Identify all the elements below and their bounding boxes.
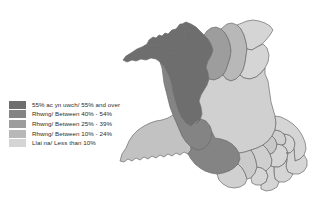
legend-item[interactable]: 55% ac yn uwch/ 55% and over: [9, 100, 117, 110]
legend-label-less-than-10: Llai na/ Less than 10%: [32, 139, 96, 147]
legend-item[interactable]: Rhwng/ Between 40% - 54%: [9, 110, 117, 120]
legend-swatch-10-to-24: [9, 130, 26, 138]
legend-label-55-and-over: 55% ac yn uwch/ 55% and over: [32, 101, 120, 109]
legend-label-40-to-54: Rhwng/ Between 40% - 54%: [32, 110, 112, 118]
legend-swatch-55-and-over: [9, 101, 26, 109]
wales-map-svg[interactable]: [118, 2, 321, 208]
map-figure: 55% ac yn uwch/ 55% and over Rhwng/ Betw…: [0, 0, 321, 208]
legend-label-25-to-39: Rhwng/ Between 25% - 39%: [32, 120, 112, 128]
map-legend: 55% ac yn uwch/ 55% and over Rhwng/ Betw…: [9, 100, 117, 148]
legend-item[interactable]: Llai na/ Less than 10%: [9, 138, 117, 148]
legend-swatch-25-to-39: [9, 120, 26, 128]
map-areas: [120, 20, 307, 191]
legend-item[interactable]: Rhwng/ Between 25% - 39%: [9, 119, 117, 129]
legend-item[interactable]: Rhwng/ Between 10% - 24%: [9, 129, 117, 139]
legend-swatch-40-to-54: [9, 110, 26, 118]
map-container[interactable]: [118, 2, 321, 208]
legend-swatch-less-than-10: [9, 139, 26, 147]
legend-label-10-to-24: Rhwng/ Between 10% - 24%: [32, 130, 112, 138]
